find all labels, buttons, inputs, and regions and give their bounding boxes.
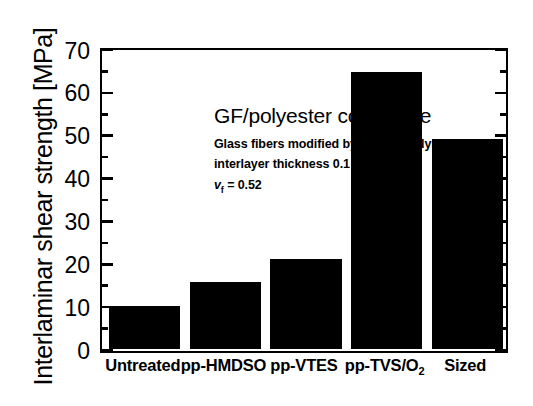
annotation-line-2: interlayer thickness 0.1 µm — [214, 154, 474, 174]
y-tick-label-50: 50 — [64, 125, 90, 148]
y-tick-label-10: 10 — [64, 296, 90, 319]
bar-series — [102, 50, 506, 351]
annotation-line-3: vf = 0.52 — [214, 175, 474, 197]
plot-area: GF/polyester composite Glass fibers modi… — [100, 48, 508, 353]
x-tick-label-pp-HMDSO: pp-HMDSO — [181, 357, 266, 374]
y-tick-label-30: 30 — [64, 210, 90, 233]
bar-pp-VTES — [270, 259, 341, 349]
x-tick-label-Sized: Sized — [444, 357, 486, 374]
bar-pp-HMDSO — [190, 282, 261, 348]
fiber-volume-value: = 0.52 — [224, 178, 262, 192]
annotation-line-1: Glass fibers modified by plasma polymer — [214, 134, 474, 154]
annotation-lines: Glass fibers modified by plasma polymer … — [214, 134, 474, 197]
y-tick-label-70: 70 — [64, 39, 90, 62]
y-tick-label-0: 0 — [77, 339, 90, 362]
y-tick-label-40: 40 — [64, 168, 90, 191]
bar-Untreated — [109, 306, 180, 349]
y-tick-label-60: 60 — [64, 82, 90, 105]
y-tick-label-20: 20 — [64, 253, 90, 276]
x-tick-label-Untreated: Untreated — [105, 357, 180, 374]
annotation-block: GF/polyester composite Glass fibers modi… — [214, 104, 474, 197]
x-axis-tick-labels: Untreatedpp-HMDSOpp-VTESpp-TVS/O2Sized — [100, 357, 508, 387]
y-axis-tick-labels: 010203040506070 — [0, 48, 100, 353]
x-tick-label-pp-TVS/O2: pp-TVS/O2 — [345, 357, 424, 377]
bar-chart-figure: Interlaminar shear strength [MPa] 010203… — [0, 0, 533, 406]
fiber-volume-symbol: v — [214, 178, 221, 192]
chart-title: GF/polyester composite — [214, 104, 474, 127]
x-tick-label-pp-VTES: pp-VTES — [270, 357, 337, 374]
